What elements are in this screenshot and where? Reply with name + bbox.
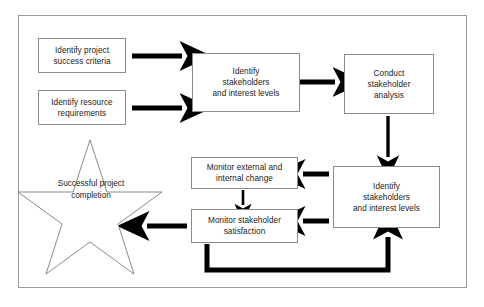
- node-identify-stakeholders-and-interest-levels-top[interactable]: Identify stakeholders and interest level…: [192, 53, 300, 112]
- node-line-2: stakeholders: [213, 77, 280, 88]
- node-monitor-stakeholder-satisfaction[interactable]: Monitor stakeholder satisfaction: [191, 209, 298, 243]
- node-line-1: Identify resource: [51, 97, 112, 108]
- node-successful-project-completion-label[interactable]: Successful project completion: [48, 178, 134, 201]
- node-line-1: Conduct: [368, 68, 411, 79]
- node-line-2: project: [100, 179, 125, 188]
- node-line-2: success criteria: [53, 56, 110, 67]
- node-line-1: Identify project: [53, 45, 110, 56]
- node-line-1: Monitor external and: [207, 162, 283, 173]
- node-monitor-external-and-internal-change[interactable]: Monitor external and internal change: [191, 157, 298, 189]
- node-line-3: and interest levels: [213, 88, 280, 99]
- node-line-1: Successful: [58, 179, 98, 188]
- node-identify-stakeholders-and-interest-levels-bottom[interactable]: Identify stakeholders and interest level…: [333, 166, 440, 228]
- node-line-2: internal change: [207, 173, 283, 184]
- node-line-3: analysis: [368, 90, 411, 101]
- node-line-2: stakeholders: [353, 192, 420, 203]
- node-line-3: and interest levels: [353, 203, 420, 214]
- flowchart-canvas: Identify project success criteria Identi…: [0, 0, 484, 307]
- node-line-1: Identify: [353, 181, 420, 192]
- node-line-2: requirements: [51, 108, 112, 119]
- node-conduct-stakeholder-analysis[interactable]: Conduct stakeholder analysis: [344, 54, 434, 114]
- node-line-1: Monitor stakeholder: [208, 215, 281, 226]
- node-line-2: stakeholder: [368, 79, 411, 90]
- node-identify-resource-requirements[interactable]: Identify resource requirements: [38, 90, 126, 125]
- node-line-3: completion: [71, 191, 111, 200]
- node-line-1: Identify: [213, 66, 280, 77]
- node-line-2: satisfaction: [208, 226, 281, 237]
- node-identify-project-success-criteria[interactable]: Identify project success criteria: [38, 38, 126, 73]
